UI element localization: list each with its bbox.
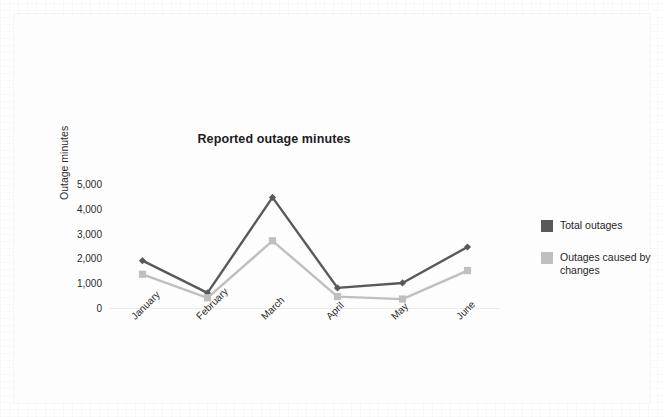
series-line [143,241,468,299]
series-outages-caused-by-changes [139,237,471,302]
series-plot [110,185,500,309]
chart-title: Reported outage minutes [14,132,534,146]
data-point-marker [269,237,276,244]
y-axis-tick-labels: 01,0002,0003,0004,0005,000 [50,185,102,309]
series-line [143,197,468,292]
legend-item-label: Total outages [560,219,622,232]
legend-item[interactable]: Total outages [541,219,653,232]
chart-card: Reported outage minutes Outage minutes 0… [14,14,650,403]
legend-item-label: Outages caused by changes [560,251,653,277]
legend-swatch-icon [541,252,553,264]
series-total-outages [139,194,471,297]
legend-item[interactable]: Outages caused by changes [541,251,653,277]
data-point-marker [464,267,471,274]
plot-area [110,185,500,309]
y-tick-label: 4,000 [56,205,102,215]
x-axis-tick-labels: JanuaryFebruaryMarchAprilMayJune [110,310,500,362]
y-tick-label: 0 [56,304,102,314]
y-tick-label: 2,000 [56,254,102,264]
chart-legend: Total outagesOutages caused by changes [541,219,653,296]
legend-swatch-icon [541,220,553,232]
chart-page: Reported outage minutes Outage minutes 0… [0,0,664,417]
data-point-marker [139,271,146,278]
y-tick-label: 1,000 [56,279,102,289]
y-tick-label: 3,000 [56,230,102,240]
axis-baseline [110,308,500,309]
y-tick-label: 5,000 [56,180,102,190]
